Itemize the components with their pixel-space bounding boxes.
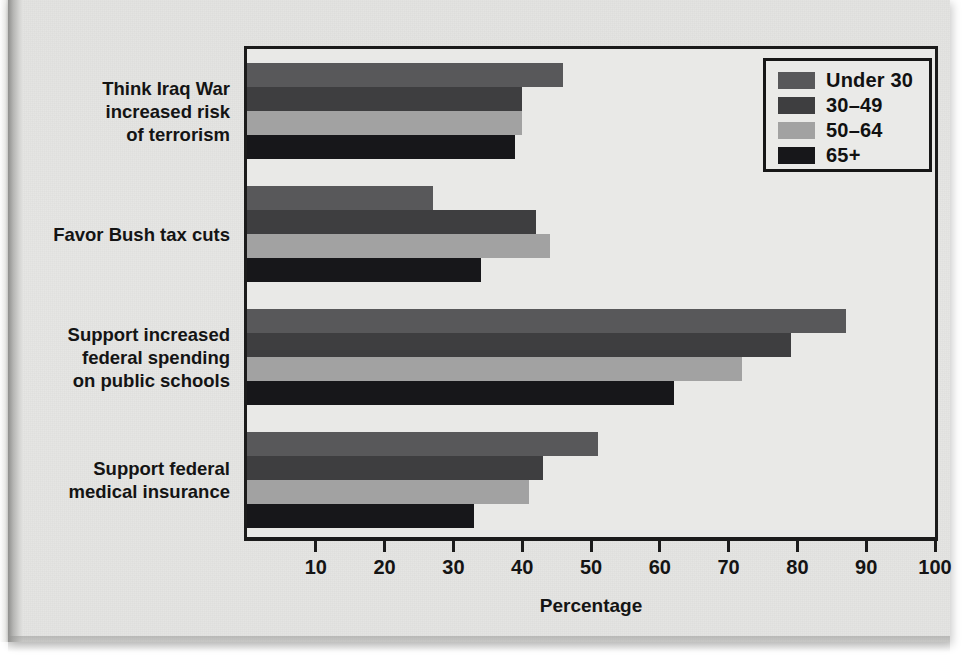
legend-item: Under 30 bbox=[778, 68, 929, 93]
category-label-line: medical insurance bbox=[16, 480, 230, 503]
bar bbox=[247, 456, 543, 480]
x-axis-tick-label: 70 bbox=[717, 556, 739, 579]
legend-label: 65+ bbox=[826, 144, 861, 167]
bar bbox=[247, 186, 433, 210]
bar bbox=[247, 333, 791, 357]
x-axis-tick-label: 40 bbox=[511, 556, 533, 579]
bar bbox=[247, 480, 529, 504]
bar bbox=[247, 258, 481, 282]
legend-item: 30–49 bbox=[778, 93, 929, 118]
x-axis-tick-label: 10 bbox=[305, 556, 327, 579]
category-label-line: Think Iraq War bbox=[16, 77, 230, 100]
bar bbox=[247, 111, 522, 135]
x-axis-tick-label: 80 bbox=[786, 556, 808, 579]
x-axis-tick-label: 60 bbox=[649, 556, 671, 579]
category-label-line: Support federal bbox=[16, 457, 230, 480]
x-axis-tick-label: 20 bbox=[373, 556, 395, 579]
category-label: Support increasedfederal spendingon publ… bbox=[16, 323, 230, 392]
category-label-line: increased risk bbox=[16, 100, 230, 123]
bar bbox=[247, 234, 550, 258]
legend-swatch-icon bbox=[778, 147, 815, 164]
x-axis-tick-label: 100 bbox=[918, 556, 951, 579]
category-label-line: on public schools bbox=[16, 369, 230, 392]
legend-label: Under 30 bbox=[826, 69, 913, 92]
bar bbox=[247, 63, 563, 87]
legend-swatch-icon bbox=[778, 72, 815, 89]
category-axis-labels: Think Iraq Warincreased riskof terrorism… bbox=[14, 0, 230, 642]
x-axis-title: Percentage bbox=[244, 595, 938, 617]
bar bbox=[247, 135, 515, 159]
x-axis-tick bbox=[796, 541, 799, 552]
x-axis-tick bbox=[452, 541, 455, 552]
category-label: Favor Bush tax cuts bbox=[16, 223, 230, 246]
legend: Under 3030–4950–6465+ bbox=[763, 58, 932, 172]
legend-label: 50–64 bbox=[826, 119, 883, 142]
x-axis-tick bbox=[865, 541, 868, 552]
bar bbox=[247, 87, 522, 111]
x-axis-tick-label: 90 bbox=[855, 556, 877, 579]
category-label-line: Favor Bush tax cuts bbox=[16, 223, 230, 246]
x-axis-tick bbox=[383, 541, 386, 552]
category-label-line: Support increased bbox=[16, 323, 230, 346]
bar bbox=[247, 210, 536, 234]
legend-item: 65+ bbox=[778, 143, 929, 168]
bar bbox=[247, 357, 742, 381]
bar bbox=[247, 309, 846, 333]
x-axis-tick bbox=[727, 541, 730, 552]
category-label: Think Iraq Warincreased riskof terrorism bbox=[16, 77, 230, 146]
legend-item: 50–64 bbox=[778, 118, 929, 143]
scanned-page-background: Think Iraq Warincreased riskof terrorism… bbox=[0, 0, 964, 671]
x-axis-tick bbox=[314, 541, 317, 552]
legend-label: 30–49 bbox=[826, 94, 883, 117]
category-label-line: of terrorism bbox=[16, 123, 230, 146]
legend-swatch-icon bbox=[778, 122, 815, 139]
bar bbox=[247, 432, 598, 456]
x-axis-tick bbox=[521, 541, 524, 552]
x-axis-tick bbox=[590, 541, 593, 552]
x-axis-tick-label: 50 bbox=[580, 556, 602, 579]
legend-swatch-icon bbox=[778, 97, 815, 114]
category-label-line: federal spending bbox=[16, 346, 230, 369]
category-label: Support federalmedical insurance bbox=[16, 457, 230, 503]
x-axis-tick bbox=[934, 541, 937, 552]
x-axis-tick-label: 30 bbox=[442, 556, 464, 579]
bar bbox=[247, 504, 474, 528]
x-axis-tick bbox=[658, 541, 661, 552]
bar bbox=[247, 381, 674, 405]
